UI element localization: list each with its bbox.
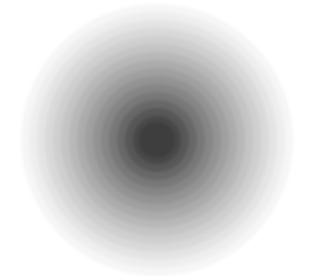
- gradient-ring: [139, 122, 175, 158]
